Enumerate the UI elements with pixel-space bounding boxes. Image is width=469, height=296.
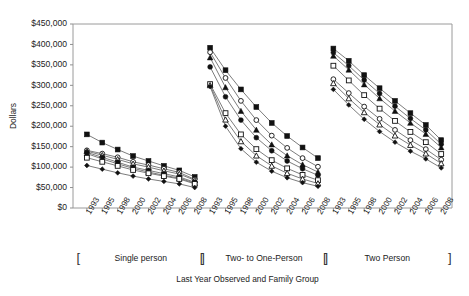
data-point-filled-circle [269, 148, 274, 153]
data-point-filled-square [285, 134, 290, 139]
x-tick-label: 2008 [439, 195, 456, 216]
data-point-open-square [269, 158, 274, 163]
data-point-open-circle [362, 104, 367, 109]
data-point-filled-diamond [223, 124, 228, 129]
y-axis-title: Dollars [8, 103, 18, 129]
group-bracket-close: ] [448, 250, 452, 265]
x-tick-label: 2008 [315, 195, 332, 216]
series-group-3 [331, 46, 444, 170]
plot-frame [73, 24, 452, 208]
data-point-filled-circle [208, 65, 213, 70]
data-point-open-triangle [392, 133, 398, 138]
data-point-open-square [408, 130, 413, 135]
data-point-open-circle [254, 118, 259, 123]
data-point-open-square [161, 174, 166, 179]
x-tick-label: 1995 [223, 195, 240, 216]
x-tick-label: 1993 [208, 195, 225, 216]
data-point-filled-square [393, 98, 398, 103]
data-point-filled-square [131, 154, 136, 159]
data-point-filled-triangle [223, 85, 229, 90]
data-point-open-circle [377, 116, 382, 121]
x-tick-label: 2000 [254, 195, 271, 216]
data-point-open-square [346, 78, 351, 83]
data-point-filled-diamond [115, 170, 120, 175]
series-group-2 [207, 45, 320, 188]
x-tick-label: 2004 [285, 195, 302, 216]
y-tick-label: $50,000 [36, 182, 67, 192]
group-label-2: Two- to One-Person [226, 253, 303, 263]
data-point-filled-diamond [146, 177, 151, 182]
x-tick-label: 2000 [377, 195, 394, 216]
data-point-open-circle [208, 50, 213, 55]
data-point-filled-square [115, 147, 120, 152]
data-point-filled-diamond [84, 163, 89, 168]
data-point-open-square [131, 168, 136, 173]
data-point-open-square [223, 111, 228, 116]
x-tick-label: 2002 [269, 195, 286, 216]
data-point-filled-square [423, 123, 428, 128]
x-tick-label: 1998 [238, 195, 255, 216]
data-point-filled-square [84, 132, 89, 137]
x-tick-label: 2002 [146, 195, 163, 216]
data-point-open-circle [300, 156, 305, 161]
data-point-open-square [100, 159, 105, 164]
data-point-open-triangle [408, 142, 414, 147]
y-tick-label: $350,000 [31, 59, 67, 69]
x-tick-label: 2006 [177, 195, 194, 216]
x-tick-label: 2004 [161, 195, 178, 216]
x-tick-label: 2000 [131, 195, 148, 216]
series-3-4 [331, 63, 444, 156]
data-point-open-square [423, 140, 428, 145]
data-point-open-square [331, 63, 336, 68]
data-point-open-square [393, 119, 398, 124]
group-label-3: Two Person [365, 253, 411, 263]
line-chart: $0$50,000$100,000$150,000$200,000$250,00… [0, 0, 469, 296]
data-point-filled-square [300, 145, 305, 150]
data-point-filled-square [239, 87, 244, 92]
data-point-filled-diamond [423, 157, 428, 162]
data-point-open-circle [223, 76, 228, 81]
group-bracket-open: [ [323, 250, 327, 265]
data-point-open-square [362, 93, 367, 98]
data-point-filled-diamond [100, 167, 105, 172]
x-tick-label: 1998 [115, 195, 132, 216]
y-tick-label: $200,000 [31, 120, 67, 130]
y-tick-label: $400,000 [31, 39, 67, 49]
data-point-filled-square [223, 68, 228, 73]
data-point-filled-square [408, 111, 413, 116]
data-point-open-square [439, 152, 444, 157]
y-tick-label: $300,000 [31, 80, 67, 90]
data-point-filled-circle [316, 173, 321, 178]
data-point-filled-circle [300, 166, 305, 171]
data-point-open-square [239, 132, 244, 137]
x-tick-label: 2006 [300, 195, 317, 216]
data-point-filled-diamond [408, 149, 413, 154]
data-point-filled-circle [223, 94, 228, 99]
data-point-filled-circle [239, 118, 244, 123]
group-label-1: Single person [115, 253, 168, 263]
data-point-filled-square [100, 140, 105, 145]
x-tick-label: 2006 [423, 195, 440, 216]
data-point-open-square [377, 106, 382, 111]
x-tick-label: 2004 [408, 195, 425, 216]
x-tick-label: 1998 [362, 195, 379, 216]
data-point-open-triangle [238, 139, 244, 144]
series-3-5 [331, 77, 444, 162]
data-point-filled-diamond [131, 174, 136, 179]
data-point-filled-square [254, 105, 259, 110]
x-tick-label: 1993 [331, 195, 348, 216]
data-point-open-circle [285, 145, 290, 150]
data-point-filled-square [316, 156, 321, 161]
data-point-open-circle [393, 128, 398, 133]
data-point-open-triangle [284, 170, 290, 175]
data-point-filled-diamond [269, 169, 274, 174]
series-2-1 [208, 45, 321, 160]
data-point-open-triangle [269, 163, 275, 168]
y-tick-label: $250,000 [31, 100, 67, 110]
group-bracket-open: [ [77, 250, 81, 265]
data-point-open-circle [269, 133, 274, 138]
y-tick-label: $150,000 [31, 141, 67, 151]
data-point-open-square [177, 177, 182, 182]
data-point-filled-square [362, 73, 367, 78]
data-point-filled-diamond [177, 181, 182, 186]
